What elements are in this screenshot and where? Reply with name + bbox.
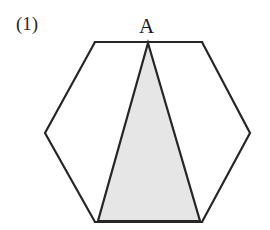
vertex-label-a: A: [139, 16, 154, 37]
figure-container: (1) A: [0, 0, 270, 230]
geometry-diagram: [0, 0, 270, 230]
